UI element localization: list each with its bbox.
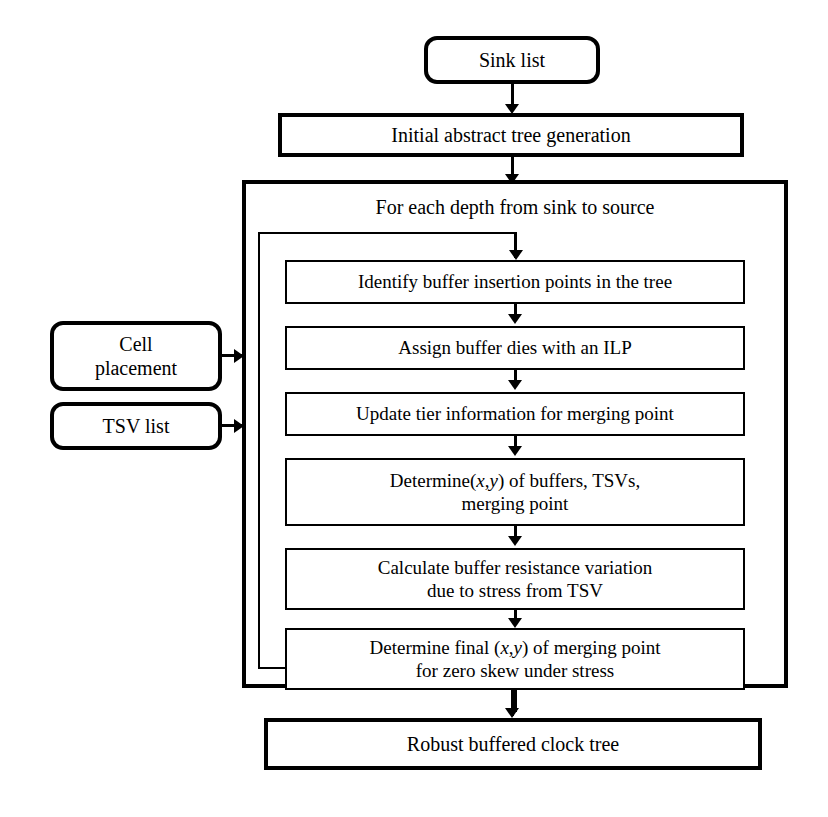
node-sink-list-label: Sink list [479,48,545,72]
flowchart-canvas: Sink list Initial abstract tree generati… [0,0,828,817]
step-determine-final-xy-merging-point-line2: for zero skew under stress [416,659,614,682]
arrowhead-step2-to-step3 [508,380,522,390]
node-initial-abstract-tree-generation-label: Initial abstract tree generation [391,123,630,147]
step-identify-buffer-insertion-points-label: Identify buffer insertion points in the … [358,270,672,293]
step-calculate-buffer-resistance-variation-line2: due to stress from TSV [427,579,603,602]
step-update-tier-information-label: Update tier information for merging poin… [356,402,674,425]
node-cell-placement[interactable]: Cell placement [50,321,222,391]
node-sink-list[interactable]: Sink list [424,36,600,84]
node-robust-buffered-clock-tree-label: Robust buffered clock tree [407,732,619,756]
arrowhead-loop-to-output [505,708,519,718]
arrowhead-loop-entry [509,250,523,260]
step-calculate-buffer-resistance-variation-line1: Calculate buffer resistance variation [378,556,653,579]
node-cell-placement-label: Cell placement [95,332,177,381]
arrowhead-step1-to-step2 [508,314,522,324]
arrowhead-tsv-list-to-container [234,419,244,433]
container-for-each-depth-label: For each depth from sink to source [242,196,788,219]
node-tsv-list[interactable]: TSV list [50,402,222,450]
arrowhead-step5-to-step6 [508,618,522,628]
node-robust-buffered-clock-tree[interactable]: Robust buffered clock tree [264,718,762,770]
step-determine-xy-buffers-tsvs[interactable]: Determine(x,y) of buffers, TSVs, merging… [285,458,745,526]
step-assign-buffer-dies-ilp-label: Assign buffer dies with an ILP [398,336,631,359]
arrowhead-cell-placement-to-container [234,349,244,363]
arrowhead-step3-to-step4 [508,446,522,456]
step-update-tier-information[interactable]: Update tier information for merging poin… [285,392,745,436]
step-identify-buffer-insertion-points[interactable]: Identify buffer insertion points in the … [285,260,745,304]
step-determine-final-xy-merging-point[interactable]: Determine final (x,y) of merging point f… [285,628,745,690]
node-tsv-list-label: TSV list [103,414,170,438]
node-initial-abstract-tree-generation[interactable]: Initial abstract tree generation [278,113,744,157]
step-assign-buffer-dies-ilp[interactable]: Assign buffer dies with an ILP [285,326,745,370]
arrowhead-step4-to-step5 [508,536,522,546]
step-determine-final-xy-merging-point-line1: Determine final (x,y) of merging point [370,636,661,659]
step-calculate-buffer-resistance-variation[interactable]: Calculate buffer resistance variation du… [285,548,745,610]
step-determine-xy-buffers-tsvs-line1: Determine(x,y) of buffers, TSVs, [390,469,640,492]
step-determine-xy-buffers-tsvs-line2: merging point [462,492,569,515]
